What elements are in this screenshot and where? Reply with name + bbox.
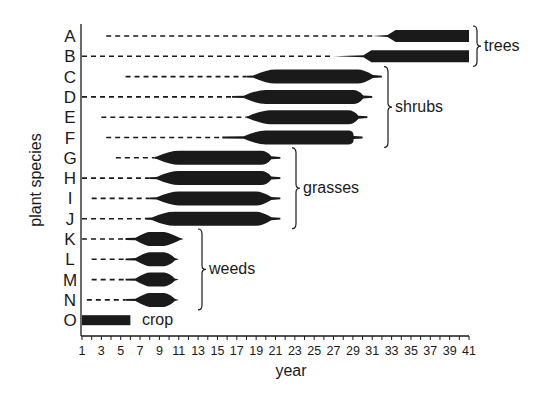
row-label: C (64, 68, 76, 87)
x-tick-label: 23 (288, 344, 302, 358)
row-label: A (64, 27, 76, 46)
species-row-c: C (64, 68, 382, 87)
row-label: G (63, 149, 76, 168)
x-tick-label: 33 (385, 344, 399, 358)
succession-chart: 1357911131517192123252729313335373941 AB… (0, 0, 550, 396)
abundance-band (150, 191, 281, 205)
abundance-band (150, 171, 281, 185)
row-label: N (64, 291, 76, 310)
species-row-f: F (65, 129, 363, 148)
species-row-i: I (68, 189, 281, 208)
group-label-grasses: grasses (303, 179, 359, 196)
x-tick-label: 21 (269, 344, 283, 358)
row-label: H (64, 169, 76, 188)
x-tick-label: 25 (307, 344, 321, 358)
row-label: O (63, 311, 76, 330)
group-label-weeds: weeds (208, 260, 255, 277)
row-label: B (64, 47, 75, 66)
x-tick-label: 39 (443, 344, 457, 358)
row-label: E (64, 108, 75, 127)
x-tick-label: 35 (404, 344, 418, 358)
row-label: M (63, 271, 77, 290)
x-tick-label: 7 (137, 344, 144, 358)
crop-bar (82, 315, 130, 325)
species-row-e: E (64, 108, 367, 127)
abundance-band (126, 273, 179, 287)
species-row-d: D (64, 88, 372, 107)
species-row-b: B (64, 47, 469, 66)
abundance-band (145, 212, 280, 226)
x-tick-label: 41 (462, 344, 476, 358)
abundance-band (222, 131, 362, 145)
abundance-band (126, 252, 179, 266)
abundance-band (126, 232, 184, 246)
species-row-j: J (66, 210, 281, 229)
row-label: K (64, 230, 76, 249)
x-tick-label: 15 (210, 344, 224, 358)
x-axis-title: year (275, 362, 307, 379)
x-tick-label: 5 (117, 344, 124, 358)
species-rows: ABCDEFGHIJKLMNO (63, 27, 469, 330)
group-label-shrubs: shrubs (395, 98, 443, 115)
x-axis: 1357911131517192123252729313335373941 (79, 336, 476, 358)
brace-weeds (198, 229, 206, 310)
row-label: I (68, 189, 73, 208)
x-tick-label: 27 (327, 344, 341, 358)
x-tick-label: 11 (172, 344, 185, 358)
row-label: D (64, 88, 76, 107)
species-row-m: M (63, 271, 179, 290)
x-tick-label: 31 (365, 344, 379, 358)
row-label: L (65, 250, 74, 269)
brace-grasses (292, 148, 300, 229)
group-label-trees: trees (484, 37, 520, 54)
brace-trees (473, 26, 481, 66)
species-row-l: L (65, 250, 178, 269)
row-label: F (65, 129, 75, 148)
abundance-band (232, 90, 372, 104)
abundance-band (126, 293, 179, 307)
abundance-band (372, 30, 469, 42)
abundance-band (246, 70, 381, 84)
species-row-a: A (64, 27, 469, 46)
abundance-band (246, 110, 367, 124)
x-tick-label: 1 (79, 344, 86, 358)
x-tick-label: 9 (156, 344, 163, 358)
x-tick-label: 37 (423, 344, 437, 358)
y-axis-title: plant species (27, 133, 44, 226)
group-label-crop: crop (142, 311, 173, 328)
x-tick-label: 29 (346, 344, 360, 358)
species-row-h: H (64, 169, 280, 188)
x-tick-label: 13 (191, 344, 205, 358)
species-row-g: G (63, 149, 280, 168)
brace-shrubs (384, 67, 392, 148)
x-tick-label: 19 (249, 344, 263, 358)
abundance-band (334, 50, 469, 62)
abundance-band (155, 151, 281, 165)
x-tick-label: 17 (230, 344, 244, 358)
x-tick-label: 3 (98, 344, 105, 358)
row-label: J (66, 210, 75, 229)
species-row-o: O (63, 311, 130, 330)
species-row-k: K (64, 230, 183, 249)
